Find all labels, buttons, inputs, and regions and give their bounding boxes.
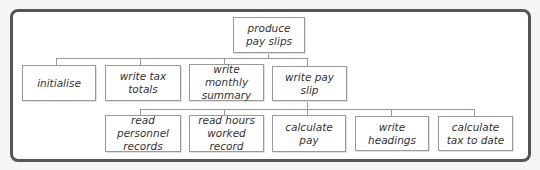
- node-write-monthly-summary: write monthly summary: [189, 64, 264, 101]
- node-produce-pay-slips: produce pay slips: [233, 17, 305, 53]
- node-calculate-tax-to-date: calculate tax to date: [438, 116, 513, 151]
- connector-calculate-tax: [474, 109, 475, 116]
- connector-level1-bar: [56, 58, 308, 59]
- node-write-headings: write headings: [355, 116, 429, 151]
- node-write-pay-slip: write pay slip: [272, 66, 347, 101]
- connector-write-tax-totals: [140, 58, 141, 65]
- node-calculate-pay: calculate pay: [272, 115, 346, 152]
- node-write-tax-totals: write tax totals: [105, 65, 181, 101]
- connector-write-pay-slip: [307, 58, 308, 66]
- connector-write-headings: [391, 109, 392, 116]
- node-read-hours-worked-record: read hours worked record: [189, 115, 264, 152]
- connector-initialise: [56, 58, 57, 65]
- node-initialise: initialise: [22, 65, 96, 101]
- node-read-personnel-records: read personnel records: [105, 115, 181, 152]
